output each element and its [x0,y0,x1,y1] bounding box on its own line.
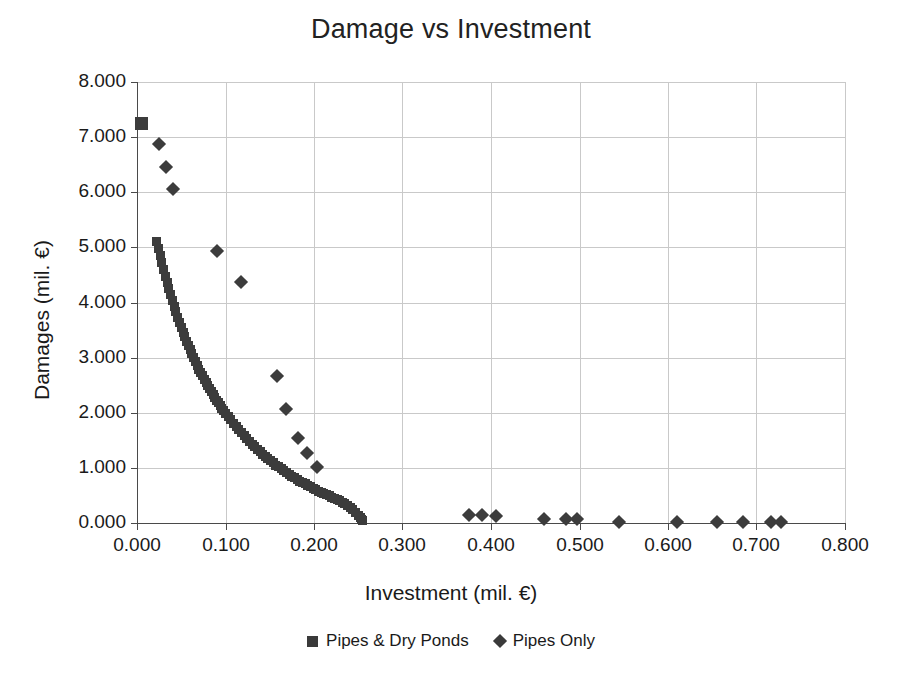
legend-square-marker-icon [307,636,318,647]
data-point [774,515,788,529]
gridline-vertical [845,82,846,523]
legend-diamond-marker-icon [493,634,507,648]
y-tick-label: 5.000 [78,235,126,257]
y-tick-label: 3.000 [78,346,126,368]
x-tick-label: 0.000 [92,534,182,556]
x-tick-mark [226,523,227,530]
chart-legend: Pipes & Dry PondsPipes Only [0,631,902,651]
data-point [152,137,166,151]
x-tick-mark [314,523,315,530]
data-point [210,244,224,258]
data-point [489,509,503,523]
data-point [736,515,750,529]
x-tick-label: 0.800 [800,534,890,556]
legend-entry-2[interactable]: Pipes Only [495,631,595,651]
x-tick-mark [756,523,757,530]
data-point [570,512,584,526]
y-tick-label: 2.000 [78,401,126,423]
x-tick-label: 0.100 [181,534,271,556]
x-axis-title: Investment (mil. €) [0,581,902,605]
x-tick-label: 0.500 [535,534,625,556]
x-tick-label: 0.400 [446,534,536,556]
x-tick-mark [668,523,669,530]
y-tick-label: 1.000 [78,456,126,478]
legend-entry-1[interactable]: Pipes & Dry Ponds [307,631,469,651]
data-point [310,460,324,474]
data-point [270,369,284,383]
data-point [462,508,476,522]
y-tick-label: 4.000 [78,291,126,313]
data-point [291,430,305,444]
x-tick-mark [580,523,581,530]
data-point [279,402,293,416]
x-tick-mark [491,523,492,530]
plot-area [137,82,845,523]
x-tick-mark [845,523,846,530]
legend-label: Pipes Only [513,631,595,651]
legend-label: Pipes & Dry Ponds [326,631,469,651]
x-tick-label: 0.700 [711,534,801,556]
data-point [300,446,314,460]
data-point [612,515,626,529]
data-point [670,515,684,529]
data-point [159,160,173,174]
y-tick-label: 0.000 [78,511,126,533]
chart-title: Damage vs Investment [0,14,902,45]
y-axis-title: Damages (mil. €) [30,240,54,400]
x-tick-label: 0.600 [623,534,713,556]
chart-container: Damage vs Investment Damages (mil. €) In… [0,0,902,694]
y-tick-label: 7.000 [78,125,126,147]
data-point [475,508,489,522]
series-2 [137,82,845,523]
data-point [166,182,180,196]
x-tick-label: 0.300 [357,534,447,556]
x-tick-mark [137,523,138,530]
x-tick-label: 0.200 [269,534,359,556]
data-point [234,275,248,289]
y-tick-label: 8.000 [78,70,126,92]
data-point [710,515,724,529]
y-tick-label: 6.000 [78,180,126,202]
x-tick-mark [402,523,403,530]
